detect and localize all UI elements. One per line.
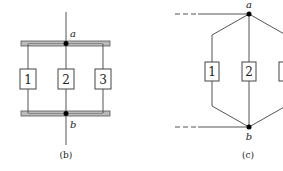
node-a-dot (247, 12, 252, 17)
node-b-dot (64, 111, 69, 116)
component-3-box (279, 62, 283, 81)
component-1-label: 1 (24, 73, 32, 87)
figure-b: 1 2 3 a b (b) (20, 12, 111, 160)
component-1-label: 1 (208, 65, 216, 79)
component-2-label: 2 (245, 65, 253, 79)
node-a-label: a (246, 0, 252, 10)
node-a-dot (64, 41, 69, 46)
node-a-label: a (70, 28, 76, 39)
figure-c: 1 2 a b (c) (175, 0, 283, 160)
component-2-label: 2 (62, 73, 70, 87)
component-3-label: 3 (99, 73, 107, 87)
figure-c-caption: (c) (242, 150, 254, 160)
node-b-dot (247, 125, 252, 130)
node-b-label: b (246, 131, 252, 142)
node-b-label: b (70, 119, 76, 130)
figure-b-caption: (b) (60, 150, 73, 160)
parallel-system-diagrams: 1 2 3 a b (b) 1 2 a b (c) (0, 0, 283, 171)
